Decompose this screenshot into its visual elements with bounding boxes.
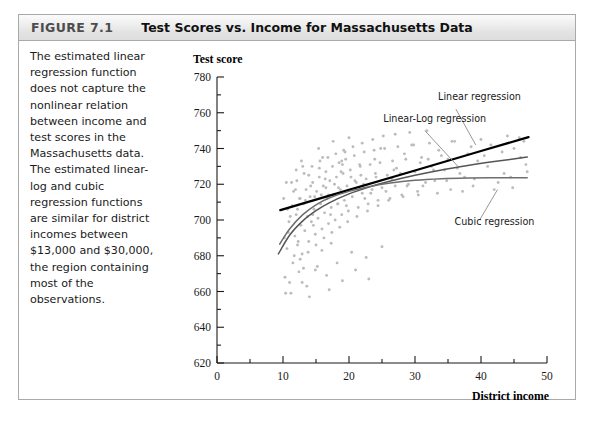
scatter-point xyxy=(318,167,321,170)
y-tick-label: 740 xyxy=(194,143,212,155)
scatter-point xyxy=(396,145,399,148)
scatter-point xyxy=(299,197,302,200)
curve-annotation-label: Linear-Log regression xyxy=(383,113,486,124)
y-tick-label: 700 xyxy=(194,214,212,226)
scatter-point xyxy=(330,231,333,234)
scatter-point xyxy=(320,227,323,230)
figure-title: Test Scores vs. Income for Massachusetts… xyxy=(141,20,472,35)
scatter-point xyxy=(301,165,304,168)
scatter-point xyxy=(358,163,361,166)
scatter-point xyxy=(344,158,347,161)
scatter-point xyxy=(296,208,299,211)
scatter-point xyxy=(317,217,320,220)
x-tick-label: 50 xyxy=(541,370,553,382)
scatter-point xyxy=(327,222,330,225)
scatter-point xyxy=(480,138,483,141)
scatter-point xyxy=(436,192,439,195)
scatter-point xyxy=(324,177,327,180)
scatter-point xyxy=(420,156,423,159)
scatter-point xyxy=(311,165,314,168)
scatter-point xyxy=(373,158,376,161)
x-tick-label: 10 xyxy=(277,370,289,382)
scatter-point xyxy=(406,185,409,188)
scatter-point xyxy=(437,149,440,152)
scatter-point xyxy=(337,186,340,189)
scatter-point xyxy=(334,152,337,155)
scatter-point xyxy=(317,147,320,150)
scatter-point xyxy=(511,186,514,189)
scatter-point xyxy=(359,174,362,177)
scatter-point xyxy=(290,181,293,184)
scatter-point xyxy=(403,152,406,155)
scatter-point xyxy=(289,292,292,295)
scatter-point xyxy=(324,186,327,189)
scatter-point xyxy=(297,240,300,243)
y-axis-title: Test score xyxy=(193,52,242,66)
scatter-point xyxy=(313,208,316,211)
scatter-point xyxy=(338,226,341,229)
scatter-point xyxy=(395,167,398,170)
scatter-point xyxy=(379,147,382,150)
scatter-point xyxy=(371,138,374,141)
scatter-point xyxy=(387,199,390,202)
x-tick-label: 20 xyxy=(343,370,355,382)
scatter-point xyxy=(295,213,298,216)
scatter-point xyxy=(309,195,312,198)
scatter-point xyxy=(363,151,366,154)
scatter-point xyxy=(320,249,323,252)
scatter-point xyxy=(284,276,287,279)
scatter-point xyxy=(319,160,322,163)
scatter-point xyxy=(314,269,317,272)
scatter-point xyxy=(293,235,296,238)
scatter-point xyxy=(336,202,339,205)
scatter-point xyxy=(333,183,336,186)
scatter-point xyxy=(375,176,378,179)
scatter-point xyxy=(427,158,430,161)
scatter-point xyxy=(404,158,407,161)
scatter-point xyxy=(289,215,292,218)
scatter-point xyxy=(314,233,317,236)
scatter-point xyxy=(497,181,500,184)
scatter-point xyxy=(348,136,351,139)
y-axis-ticks xyxy=(217,77,224,363)
scatter-point xyxy=(451,140,454,143)
scatter-point xyxy=(311,181,314,184)
scatter-point xyxy=(341,279,344,282)
plot-area: 620640660680700720740760780 01020304050 … xyxy=(155,41,576,400)
scatter-point xyxy=(307,251,310,254)
scatter-point xyxy=(331,165,334,168)
scatter-point xyxy=(313,195,316,198)
scatter-point xyxy=(357,206,360,209)
scatter-point xyxy=(315,190,318,193)
scatter-point xyxy=(486,165,489,168)
scatter-point xyxy=(346,220,349,223)
annotation-leader-line xyxy=(425,131,458,167)
figure-caption: The estimated linear regression function… xyxy=(30,49,155,308)
scatter-point xyxy=(365,256,368,259)
scatter-point xyxy=(296,244,299,247)
scatter-points-group xyxy=(282,129,528,298)
scatter-point xyxy=(309,185,312,188)
scatter-point xyxy=(428,142,431,145)
scatter-point xyxy=(353,154,356,157)
scatter-point xyxy=(299,258,302,261)
scatter-point xyxy=(392,169,395,172)
scatter-point xyxy=(351,195,354,198)
scatter-point xyxy=(291,261,294,264)
scatter-point xyxy=(315,244,318,247)
scatter-point xyxy=(526,170,529,173)
scatter-point xyxy=(354,269,357,272)
scatter-point xyxy=(412,143,415,146)
scatter-point xyxy=(524,163,527,166)
scatter-point xyxy=(324,170,327,173)
scatter-point xyxy=(366,210,369,213)
scatter-point xyxy=(330,242,333,245)
scatter-point xyxy=(367,278,370,281)
scatter-point xyxy=(301,253,304,256)
curve-annotation-label: Cubic regression xyxy=(455,216,535,227)
scatter-point xyxy=(285,181,288,184)
scatter-point xyxy=(340,170,343,173)
scatter-point xyxy=(383,147,386,150)
scatter-point xyxy=(350,251,353,254)
scatter-point xyxy=(373,149,376,152)
